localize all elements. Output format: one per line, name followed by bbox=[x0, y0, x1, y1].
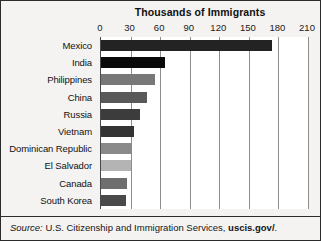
bar-row bbox=[101, 192, 308, 209]
category-label: China bbox=[68, 92, 92, 103]
category-row: Vietnam bbox=[1, 123, 96, 140]
bar-row bbox=[101, 123, 308, 140]
category-label: Mexico bbox=[63, 40, 93, 51]
category-label: Vietnam bbox=[58, 126, 92, 137]
category-label: India bbox=[72, 57, 92, 68]
source-note: Source: U.S. Citizenship and Immigration… bbox=[10, 222, 277, 233]
source-link[interactable]: uscis.gov/ bbox=[228, 222, 274, 233]
bar-south-korea bbox=[101, 195, 126, 206]
bar-india bbox=[101, 57, 165, 68]
source-suffix: . bbox=[275, 222, 278, 233]
category-label: Canada bbox=[59, 178, 92, 189]
bar-row bbox=[101, 106, 308, 123]
category-label: South Korea bbox=[40, 195, 92, 206]
category-row: Dominican Republic bbox=[1, 140, 96, 157]
x-tick-label-30: 30 bbox=[124, 22, 135, 33]
bar-row bbox=[101, 89, 308, 106]
bar-canada bbox=[101, 178, 127, 189]
plot-area bbox=[100, 37, 308, 209]
category-row: Canada bbox=[1, 175, 96, 192]
immigration-bar-chart-figure: Thousands of Immigrants 0306090120150180… bbox=[0, 0, 321, 241]
x-tick-label-90: 90 bbox=[183, 22, 194, 33]
x-tick-label-180: 180 bbox=[269, 22, 285, 33]
bar-row bbox=[101, 175, 308, 192]
source-agency: U.S. Citizenship and Immigration Service… bbox=[45, 222, 225, 233]
category-label: Dominican Republic bbox=[9, 143, 92, 154]
bar-dominican-republic bbox=[101, 143, 132, 154]
x-tick-label-0: 0 bbox=[97, 22, 102, 33]
bar-vietnam bbox=[101, 126, 134, 137]
x-axis-tick-labels: 0306090120150180210 bbox=[1, 22, 321, 35]
bar-row bbox=[101, 71, 308, 88]
category-label: Philippines bbox=[47, 74, 92, 85]
category-row: South Korea bbox=[1, 192, 96, 209]
bar-china bbox=[101, 92, 147, 103]
category-label: El Salvador bbox=[45, 160, 92, 171]
chart-title: Thousands of Immigrants bbox=[100, 6, 300, 18]
bar-russia bbox=[101, 109, 140, 120]
bar-mexico bbox=[101, 40, 272, 51]
category-row: China bbox=[1, 89, 96, 106]
x-tick-label-210: 210 bbox=[299, 22, 315, 33]
x-tick-label-60: 60 bbox=[154, 22, 165, 33]
x-tick-label-150: 150 bbox=[240, 22, 256, 33]
category-labels-column: MexicoIndiaPhilippinesChinaRussiaVietnam… bbox=[1, 37, 96, 209]
bar-row bbox=[101, 157, 308, 174]
category-row: Russia bbox=[1, 106, 96, 123]
bar-el-salvador bbox=[101, 160, 131, 171]
bar-row bbox=[101, 37, 308, 54]
category-row: El Salvador bbox=[1, 157, 96, 174]
bar-philippines bbox=[101, 74, 155, 85]
bar-row bbox=[101, 54, 308, 71]
source-prefix: Source: bbox=[10, 222, 43, 233]
category-row: India bbox=[1, 54, 96, 71]
bars-layer bbox=[101, 37, 308, 209]
source-divider bbox=[1, 216, 321, 217]
category-row: Philippines bbox=[1, 71, 96, 88]
category-label: Russia bbox=[64, 109, 92, 120]
x-tick-label-120: 120 bbox=[210, 22, 226, 33]
category-row: Mexico bbox=[1, 37, 96, 54]
bar-row bbox=[101, 140, 308, 157]
gridline-210 bbox=[308, 37, 309, 209]
